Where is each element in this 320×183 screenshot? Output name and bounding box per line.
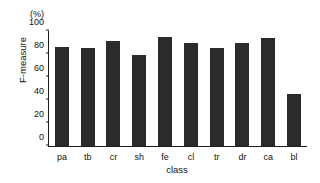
bar-series: patbcrshfecltrdrcabl [49,31,307,146]
x-tick-label: cr [110,152,118,162]
bar-group: fe [152,31,178,146]
y-axis-title: F-measure [18,24,28,96]
bar [132,55,146,146]
x-tick-label: dr [238,152,246,162]
y-tick-label: 40 [34,87,49,96]
bar [184,43,198,147]
x-tick-label: sh [135,152,145,162]
bar [235,43,249,147]
bar [55,47,69,146]
y-tick-label: 60 [34,64,49,73]
bar-group: sh [126,31,152,146]
y-tick-label: 0 [39,133,49,142]
x-tick-label: fe [161,152,169,162]
bar-group: ca [255,31,281,146]
bar [287,94,301,146]
bar-group: pa [49,31,75,146]
bar-chart-figure: (%) F-measure 020406080100 patbcrshfeclt… [0,0,320,183]
x-tick-label: tb [84,152,92,162]
y-tick-label: 80 [34,41,49,50]
x-tick-label: ca [264,152,274,162]
x-axis-title: class [48,165,306,175]
bar-group: bl [281,31,307,146]
bar [261,38,275,146]
bar-group: tb [75,31,101,146]
bar [158,37,172,146]
bar-group: tr [204,31,230,146]
bar [81,48,95,146]
plot-area: 020406080100 patbcrshfecltrdrcabl [48,31,307,147]
bar-group: cl [178,31,204,146]
bar-group: cr [101,31,127,146]
bar [106,41,120,146]
x-tick-label: bl [291,152,298,162]
y-tick-label: 20 [34,110,49,119]
y-tick-label: 100 [29,18,49,27]
x-tick-label: tr [214,152,220,162]
x-tick-label: cl [188,152,195,162]
x-tick-label: pa [57,152,67,162]
bar [210,48,224,146]
bar-group: dr [230,31,256,146]
